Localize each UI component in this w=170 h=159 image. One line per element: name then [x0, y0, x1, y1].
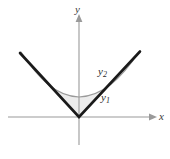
y-axis-label: y — [75, 4, 80, 15]
shaded-region-between-curves — [21, 53, 140, 118]
curve-label-y1-subscript: 1 — [106, 96, 110, 105]
figure-graph-y1-y2: y x y2 y1 — [0, 0, 170, 159]
curve-label-y1: y1 — [101, 92, 110, 103]
graph-canvas — [0, 0, 170, 159]
figure-caption — [24, 150, 144, 158]
curve-label-y2-subscript: 2 — [103, 70, 107, 79]
y-axis-arrowhead-icon — [76, 14, 83, 22]
curve-label-y2: y2 — [98, 66, 107, 77]
x-axis-arrowhead-icon — [149, 114, 157, 121]
x-axis-label: x — [159, 111, 164, 122]
